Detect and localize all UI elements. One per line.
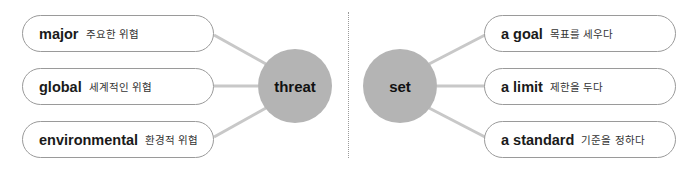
term-en: environmental (39, 132, 138, 148)
collocation-a-limit: a limit 제한을 두다 (484, 68, 676, 105)
collocation-a-goal: a goal 목표를 세우다 (484, 15, 676, 52)
collocation-major: major 주요한 위협 (22, 15, 214, 52)
term-en: major (39, 26, 79, 42)
connector-environmental (214, 108, 266, 137)
term-ko: 제한을 두다 (550, 79, 603, 94)
term-en: a standard (501, 132, 574, 148)
term-ko: 세계적인 위협 (89, 79, 152, 94)
term-en: global (39, 79, 82, 95)
term-en: a goal (501, 26, 543, 42)
term-ko: 기준을 정하다 (581, 132, 644, 147)
collocation-a-standard: a standard 기준을 정하다 (484, 121, 676, 158)
hub-set: set (363, 49, 437, 123)
connector-major (214, 35, 266, 64)
term-ko: 목표를 세우다 (550, 26, 613, 41)
collocation-environmental: environmental 환경적 위협 (22, 121, 214, 158)
hub-threat: threat (258, 49, 332, 123)
term-en: a limit (501, 79, 543, 95)
term-ko: 주요한 위협 (86, 26, 139, 41)
collocation-global: global 세계적인 위협 (22, 68, 214, 105)
hub-label: threat (274, 78, 316, 95)
connector-a-standard (429, 108, 485, 137)
hub-label: set (389, 78, 411, 95)
connector-a-goal (429, 35, 485, 64)
term-ko: 환경적 위협 (145, 132, 198, 147)
divider (348, 12, 349, 158)
